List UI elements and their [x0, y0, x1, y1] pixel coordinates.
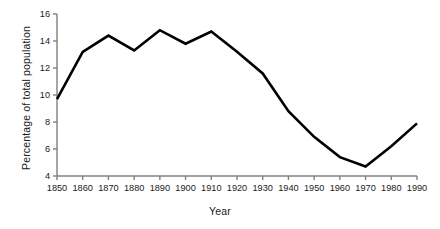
x-tick-label: 1870 [98, 183, 118, 193]
x-tick-label: 1860 [72, 183, 92, 193]
x-tick-label: 1890 [150, 183, 170, 193]
line-chart-plot: 46810121416 1850186018701880189019001910… [0, 0, 440, 229]
x-axis-title: Year [0, 205, 440, 217]
y-tick-label: 4 [45, 171, 50, 181]
x-axis: 1850186018701880189019001910192019301940… [47, 176, 427, 193]
y-tick-label: 10 [40, 90, 50, 100]
x-tick-label: 1940 [278, 183, 298, 193]
y-axis: 46810121416 [40, 9, 57, 181]
chart-container: 46810121416 1850186018701880189019001910… [0, 0, 440, 229]
data-series-group [57, 30, 417, 166]
x-tick-label: 1960 [330, 183, 350, 193]
x-tick-label: 1920 [227, 183, 247, 193]
y-tick-label: 6 [45, 144, 50, 154]
x-tick-label: 1990 [407, 183, 427, 193]
y-tick-label: 16 [40, 9, 50, 19]
x-tick-label: 1910 [201, 183, 221, 193]
x-tick-label: 1970 [355, 183, 375, 193]
x-tick-label: 1950 [304, 183, 324, 193]
y-tick-label: 14 [40, 36, 50, 46]
x-tick-label: 1900 [175, 183, 195, 193]
data-line [57, 30, 417, 166]
x-tick-label: 1980 [381, 183, 401, 193]
y-tick-label: 12 [40, 63, 50, 73]
y-axis-title: Percentage of total population [20, 8, 32, 188]
x-tick-label: 1930 [252, 183, 272, 193]
y-tick-label: 8 [45, 117, 50, 127]
x-tick-label: 1880 [124, 183, 144, 193]
x-tick-label: 1850 [47, 183, 67, 193]
